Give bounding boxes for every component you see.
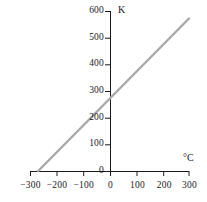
y-tick-label-400: 400: [84, 58, 104, 68]
temperature-conversion-chart: 600 500 400 300 200 100 0 −300 −200 −100…: [0, 0, 207, 202]
y-axis-ticks: [105, 12, 110, 172]
y-tick-label-600: 600: [84, 5, 104, 15]
x-axis-unit-label: °C: [183, 152, 194, 163]
y-tick-label-0: 0: [84, 165, 104, 175]
y-axis-unit-label: K: [118, 4, 125, 15]
y-tick-label-200: 200: [84, 112, 104, 122]
x-tick-label-300: 300: [174, 180, 205, 190]
y-tick-label-500: 500: [84, 32, 104, 42]
data-line-kelvin-celsius: [38, 19, 189, 172]
y-tick-label-300: 300: [84, 85, 104, 95]
y-tick-label-100: 100: [84, 138, 104, 148]
